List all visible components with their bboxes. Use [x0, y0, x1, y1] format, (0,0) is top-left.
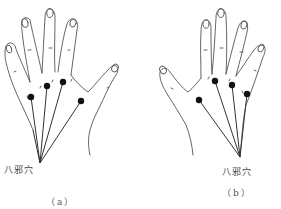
- baxie-acupoint-diagram: 八邪穴 （a） 八邪穴 （b）: [0, 0, 281, 209]
- hand-a-acupoints: [28, 79, 84, 104]
- hand-b-acupoints: [196, 78, 250, 103]
- hand-a-pointer-lines: [31, 82, 81, 163]
- hand-b-outline: [158, 9, 265, 158]
- baxie-point-label-b: 八邪穴: [222, 165, 252, 178]
- panel-caption-a: （a）: [46, 195, 75, 208]
- baxie-point-label-a: 八邪穴: [4, 163, 34, 176]
- panel-caption-b: （b）: [222, 186, 252, 199]
- hand-b-pointer-lines: [199, 81, 247, 157]
